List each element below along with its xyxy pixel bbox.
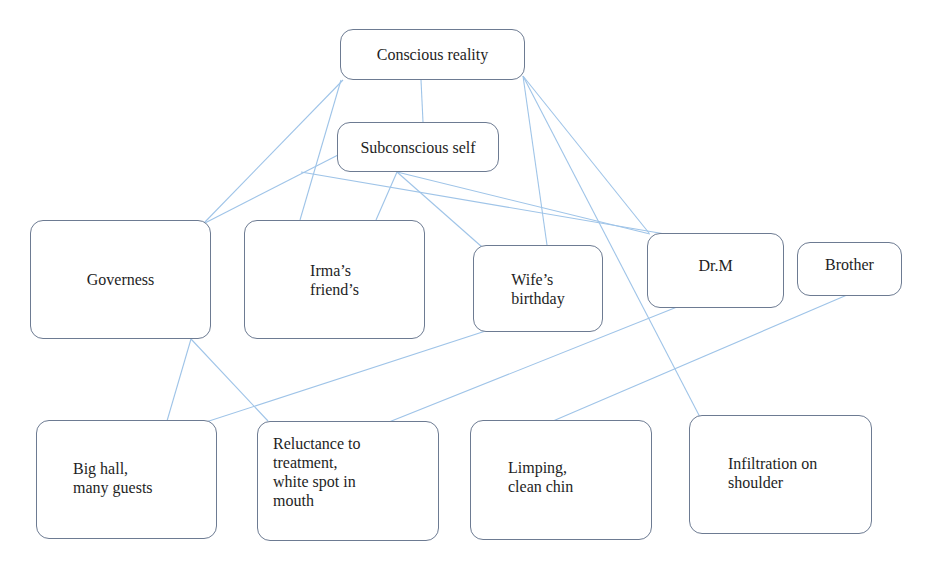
edge-subconscious-irmas-friends <box>376 172 397 220</box>
edge-conscious-wifes-birthday <box>523 76 547 245</box>
edge-subconscious-drm <box>397 172 650 234</box>
node-governess: Governess <box>30 220 211 339</box>
node-big-hall: Big hall, many guests <box>36 420 217 539</box>
edge-governess-big-hall <box>167 339 191 421</box>
node-infiltration: Infiltration on shoulder <box>689 415 872 534</box>
edge-governess-reluctance <box>191 339 268 421</box>
node-reluctance: Reluctance to treatment, white spot in m… <box>257 421 439 541</box>
node-label: Reluctance to treatment, white spot in m… <box>273 434 361 510</box>
node-label: Governess <box>87 270 155 289</box>
node-limping: Limping, clean chin <box>470 420 652 540</box>
edge-subconscious-governess <box>203 155 338 224</box>
node-brother: Brother <box>797 242 902 296</box>
edge-wifes-birthday-big-hall <box>206 325 504 422</box>
node-label: Wife’s birthday <box>511 270 564 308</box>
node-label: Conscious reality <box>377 45 489 64</box>
node-subconscious-self: Subconscious self <box>337 122 499 172</box>
node-conscious-reality: Conscious reality <box>340 29 525 80</box>
node-label: Subconscious self <box>360 138 475 157</box>
node-label: Irma’s friend’s <box>310 261 359 299</box>
node-label: Infiltration on shoulder <box>728 454 817 492</box>
node-wifes-birthday: Wife’s birthday <box>473 245 603 332</box>
node-label: Dr.M <box>698 256 732 275</box>
edge-conscious-drm <box>523 76 649 233</box>
edge-conscious-subconscious <box>421 80 423 122</box>
node-irmas-friends: Irma’s friend’s <box>244 220 425 339</box>
node-label: Big hall, many guests <box>73 459 153 497</box>
node-label: Brother <box>825 255 874 274</box>
node-label: Limping, clean chin <box>508 458 573 496</box>
edge-conscious-governess <box>203 80 343 224</box>
edge-conscious-irmas-friends <box>300 80 341 220</box>
node-dr-m: Dr.M <box>647 233 784 308</box>
